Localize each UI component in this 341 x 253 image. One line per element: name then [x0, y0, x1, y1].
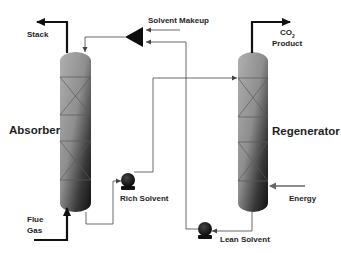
solvent-makeup-label: Solvent Makeup — [148, 17, 209, 26]
product-label: Product — [272, 40, 302, 49]
rich-solvent-label: Rich Solvent — [120, 195, 168, 204]
flue-gas-label-line1: Flue — [27, 216, 43, 225]
absorber-column — [60, 52, 91, 212]
co2-label: CO2 — [280, 29, 295, 39]
co2-text: CO — [280, 28, 292, 37]
lean-solvent-label: Lean Solvent — [220, 236, 270, 245]
lean-solvent-stream — [212, 212, 252, 231]
rich-solvent-pump — [121, 173, 135, 190]
regenerator-column — [238, 52, 268, 212]
stack-label: Stack — [27, 31, 48, 40]
regenerator-label: Regenerator — [272, 125, 340, 138]
rich-solvent-to-regenerator-stream — [134, 78, 237, 172]
lean-solvent-pump — [198, 222, 212, 239]
flue-gas-label-line2: Gas — [27, 227, 42, 236]
solvent-feed-stream — [85, 37, 125, 52]
solvent-makeup-mixer — [125, 27, 143, 47]
rich-solvent-stream — [86, 181, 121, 224]
co2-subscript: 2 — [292, 33, 295, 39]
energy-label: Energy — [289, 195, 316, 204]
absorber-label: Absorber — [9, 124, 60, 137]
